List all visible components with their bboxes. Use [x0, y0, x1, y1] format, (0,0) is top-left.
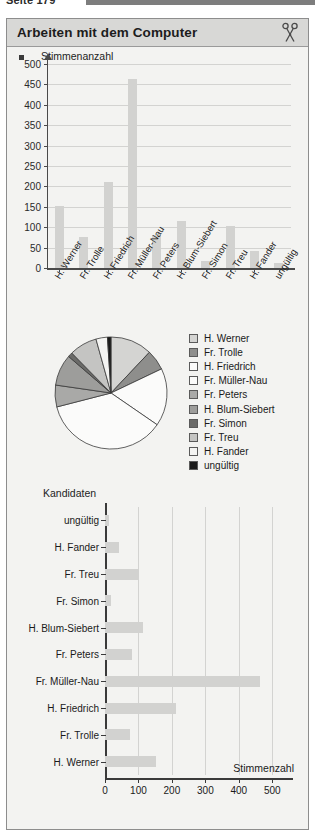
page-title: Arbeiten mit dem Computer: [17, 25, 197, 40]
x-tick-label: 300: [197, 785, 214, 796]
legend-label: Fr. Müller-Nau: [204, 375, 267, 386]
y-tick-label: 50: [11, 242, 41, 253]
legend-item: Fr. Trolle: [189, 345, 275, 359]
bar: [105, 649, 132, 660]
x-tick: [272, 779, 273, 783]
category-label: Fr. Peters: [7, 649, 99, 660]
horizontal-chart-x-axis: [105, 778, 293, 780]
vertical-chart-plot-area: [47, 64, 291, 268]
x-tick: [230, 268, 231, 272]
x-tick: [84, 268, 85, 272]
y-tick-label: 250: [11, 161, 41, 172]
horizontal-bar-chart: Kandidaten ungültigH. FanderFr. TreuFr. …: [7, 485, 308, 829]
y-tick: [44, 84, 48, 85]
legend-swatch: [189, 447, 198, 456]
pie-chart-legend: H. WernerFr. TrolleH. FriedrichFr. Mülle…: [189, 331, 275, 473]
y-tick: [44, 125, 48, 126]
gridline: [239, 507, 240, 775]
x-tick: [105, 779, 106, 783]
legend-item: H. Fander: [189, 445, 275, 459]
gridline: [47, 64, 291, 65]
y-tick-label: 200: [11, 181, 41, 192]
legend-label: H. Fander: [204, 446, 248, 457]
bar: [105, 729, 130, 740]
gridline: [138, 507, 139, 775]
x-tick-label: 0: [102, 785, 108, 796]
category-label: Fr. Treu: [7, 569, 99, 580]
y-tick: [101, 601, 106, 602]
y-tick-label: 0: [11, 263, 41, 274]
x-tick: [132, 268, 133, 272]
category-label: H. Werner: [7, 756, 99, 767]
legend-item: Fr. Treu: [189, 430, 275, 444]
scissors-icon: [280, 22, 300, 44]
pie-chart-section: H. WernerFr. TrolleH. FriedrichFr. Mülle…: [7, 325, 308, 489]
x-tick: [59, 268, 60, 272]
y-tick: [101, 628, 106, 629]
x-tick: [108, 268, 109, 272]
bar: [105, 542, 119, 553]
vertical-chart-y-axis-arrow-icon: [44, 53, 52, 60]
legend-label: H. Blum-Siebert: [204, 404, 275, 415]
bar: [104, 182, 113, 268]
y-tick: [101, 654, 106, 655]
x-tick: [239, 779, 240, 783]
legend-swatch: [189, 348, 198, 357]
gridline: [47, 186, 291, 187]
legend-label: H. Friedrich: [204, 361, 256, 372]
y-tick-label: 450: [11, 79, 41, 90]
x-tick: [254, 268, 255, 272]
bar: [105, 676, 260, 687]
category-label: H. Blum-Siebert: [7, 622, 99, 633]
category-label: ungültig: [7, 515, 99, 526]
legend-item: Fr. Peters: [189, 388, 275, 402]
bar: [105, 703, 176, 714]
gridline: [272, 507, 273, 775]
x-tick: [138, 779, 139, 783]
gridline: [205, 507, 206, 775]
legend-swatch: [189, 405, 198, 414]
y-tick-label: 300: [11, 140, 41, 151]
gridline: [172, 507, 173, 775]
x-tick-label: 100: [130, 785, 147, 796]
legend-item: Fr. Müller-Nau: [189, 374, 275, 388]
y-tick: [44, 64, 48, 65]
y-tick: [101, 762, 106, 763]
gridline: [47, 105, 291, 106]
gridline: [47, 166, 291, 167]
gridline: [47, 84, 291, 85]
y-tick: [44, 207, 48, 208]
legend-label: ungültig: [204, 460, 239, 471]
running-head-text: Seite 179: [6, 0, 56, 6]
category-label: Fr. Trolle: [7, 729, 99, 740]
y-tick-label: 100: [11, 222, 41, 233]
y-tick: [44, 166, 48, 167]
bar: [105, 622, 143, 633]
y-tick: [44, 186, 48, 187]
y-tick: [44, 227, 48, 228]
x-tick: [205, 779, 206, 783]
x-tick: [206, 268, 207, 272]
vertical-chart-x-tick-labels: H. WernerFr. TrolleH. FriedrichFr. Mülle…: [7, 273, 308, 325]
horizontal-chart-plot-area: [105, 507, 289, 775]
legend-label: H. Werner: [204, 333, 249, 344]
legend-swatch: [189, 376, 198, 385]
legend-label: Fr. Treu: [204, 432, 238, 443]
running-head: Seite 179: [0, 0, 315, 12]
legend-swatch: [189, 390, 198, 399]
legend-item: H. Friedrich: [189, 359, 275, 373]
content-panel: Arbeiten mit dem Computer Stimmenanzah: [6, 18, 309, 830]
bar: [105, 756, 156, 767]
pie-chart: [51, 333, 171, 453]
y-tick: [101, 547, 106, 548]
y-tick: [44, 105, 48, 106]
gridline: [47, 125, 291, 126]
category-label: H. Friedrich: [7, 703, 99, 714]
page-root: Seite 179 Arbeiten mit dem Computer: [0, 0, 315, 834]
legend-swatch: [189, 419, 198, 428]
y-tick-label: 500: [11, 59, 41, 70]
legend-swatch: [189, 433, 198, 442]
panel-header: Arbeiten mit dem Computer: [7, 19, 308, 47]
y-tick: [44, 268, 48, 269]
legend-label: Fr. Simon: [204, 418, 247, 429]
